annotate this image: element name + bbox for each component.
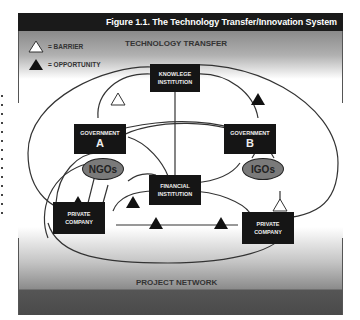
opportunity-triangle [214, 217, 228, 229]
figure-technology-transfer-system: Figure 1.1. The Technology Transfer/Inno… [18, 13, 343, 315]
opportunity-triangle [149, 217, 163, 229]
node-label: GOVERNMENT [230, 129, 269, 137]
barrier-triangle [111, 93, 125, 105]
node-label: FINANCIAL [160, 182, 190, 190]
node-label: INSTITUTION [158, 78, 193, 86]
barrier-triangle [273, 199, 287, 211]
node-label: GOVERNMENT [80, 129, 119, 137]
node-private-company-left: PRIVATE COMPANY [53, 202, 105, 234]
node-label: COMPANY [65, 218, 93, 226]
node-label: A [96, 137, 104, 150]
opportunity-triangle [126, 196, 140, 208]
node-label: PRIVATE [67, 210, 90, 218]
node-private-company-right: PRIVATE COMPANY [242, 212, 294, 244]
adjacent-page-text-edge [0, 88, 4, 308]
oval-ngos: NGOs [82, 158, 124, 180]
node-financial-institution: FINANCIAL INSTITUTION [149, 175, 201, 205]
node-government-a: GOVERNMENT A [74, 124, 126, 154]
node-label: COMPANY [254, 228, 282, 236]
node-label: KNOWLEGE [159, 70, 191, 78]
oval-igos: IGOs [242, 158, 284, 180]
connection-lines [18, 13, 343, 315]
node-label: INSTITUTION [158, 190, 193, 198]
node-label: PRIVATE [256, 220, 279, 228]
node-knowledge-institution: KNOWLEGE INSTITUTION [150, 64, 200, 92]
node-government-b: GOVERNMENT B [224, 124, 276, 154]
node-label: B [246, 137, 254, 150]
opportunity-triangle [251, 93, 265, 105]
